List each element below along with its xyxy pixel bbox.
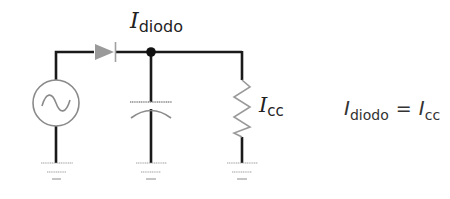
ac-source-icon (33, 80, 79, 126)
wires (56, 51, 242, 163)
diode-icon (95, 42, 116, 62)
label-i-cc-subscript: cc (267, 102, 284, 120)
label-i-diodo: Idiodo (130, 8, 183, 33)
ground-icon-2 (136, 163, 167, 179)
equation-operator: = (396, 97, 412, 119)
ground-icon-1 (41, 163, 73, 179)
equation-rhs-symbol: I (419, 96, 425, 120)
label-i-diodo-subscript: diodo (139, 17, 183, 36)
label-i-diodo-symbol: I (130, 8, 139, 33)
junction-dot (146, 47, 156, 57)
equation: Idiodo = Icc (344, 96, 440, 120)
label-i-cc: Icc (259, 93, 284, 117)
equation-rhs-subscript: cc (425, 107, 440, 123)
resistor-icon (234, 80, 250, 137)
equation-lhs-subscript: diodo (350, 107, 389, 123)
ground-icon-3 (227, 163, 258, 179)
